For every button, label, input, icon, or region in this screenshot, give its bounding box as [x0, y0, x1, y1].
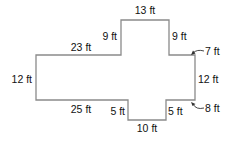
arrowhead-8ft-icon: [191, 102, 196, 106]
label-left-top: 23 ft: [71, 41, 92, 53]
label-bottom: 10 ft: [137, 122, 158, 134]
label-upper-left-vertical: 9 ft: [102, 30, 117, 42]
label-left-side: 12 ft: [12, 73, 33, 85]
label-notch-left-vertical: 5 ft: [110, 105, 125, 117]
label-top-right-step: 7 ft: [205, 45, 220, 57]
floor-plan-diagram: 13 ft 9 ft 9 ft 7 ft 23 ft 12 ft 12 ft 2…: [0, 0, 241, 143]
label-bottom-right-step: 8 ft: [205, 102, 220, 114]
label-left-bottom: 25 ft: [71, 103, 92, 115]
label-right-side: 12 ft: [198, 73, 219, 85]
arrow-8ft-icon: [193, 104, 204, 109]
label-top: 13 ft: [135, 4, 156, 16]
label-upper-right-vertical: 9 ft: [172, 30, 187, 42]
label-notch-right-vertical: 5 ft: [168, 105, 183, 117]
